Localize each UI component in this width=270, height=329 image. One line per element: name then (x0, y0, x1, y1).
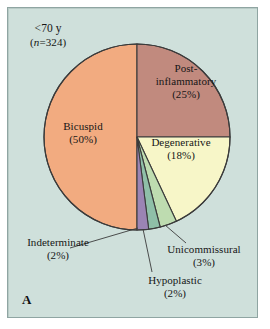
slice-label-post-inflammatory: Post- inflammatory (25%) (150, 62, 222, 100)
slice-label-bicuspid: Bicuspid (50%) (45, 120, 121, 146)
leader-line-hypoplastic (143, 229, 152, 272)
slice-value-post-inflammatory: (25%) (150, 88, 222, 101)
slice-label-unicommissural: Unicommissural (3%) (152, 243, 256, 269)
slice-label-post-inflammatory-line1: Post- (175, 62, 198, 74)
slice-label-hypoplastic: Hypoplastic (2%) (132, 274, 218, 300)
slice-value-bicuspid: (50%) (45, 133, 121, 146)
slice-value-indeterminate: (2%) (8, 249, 108, 262)
chart-title-line2: (n=324) (30, 36, 66, 49)
slice-value-unicommissural: (3%) (152, 256, 256, 269)
slice-value-hypoplastic: (2%) (132, 287, 218, 300)
slice-label-indeterminate-text: Indeterminate (27, 236, 89, 248)
chart-title-line1: <70 y (30, 22, 66, 36)
slice-label-bicuspid-text: Bicuspid (63, 120, 103, 132)
slice-value-degenerative: (18%) (138, 149, 224, 162)
slice-label-degenerative: Degenerative (18%) (138, 136, 224, 162)
chart-title: <70 y (n=324) (30, 22, 66, 49)
slice-label-indeterminate: Indeterminate (2%) (8, 236, 108, 262)
slice-label-degenerative-text: Degenerative (151, 136, 210, 148)
slice-label-hypoplastic-text: Hypoplastic (148, 274, 202, 286)
slice-label-post-inflammatory-line2: inflammatory (156, 75, 216, 87)
sample-size-value: =324) (39, 36, 66, 48)
figure-panel-a: <70 y (n=324) Post- inflammatory (25%) D… (0, 0, 270, 329)
leader-line-unicommissural (165, 225, 186, 243)
slice-label-unicommissural-text: Unicommissural (167, 243, 240, 255)
panel-label: A (22, 292, 31, 308)
